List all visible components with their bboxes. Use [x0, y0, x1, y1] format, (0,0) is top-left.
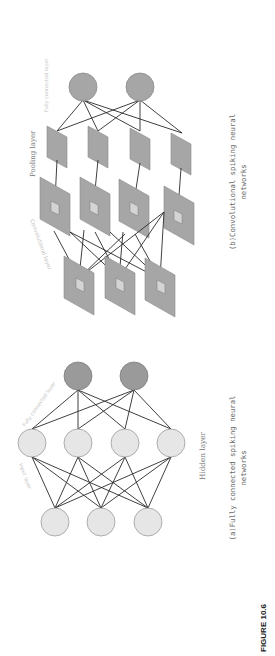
edges-hidden-to-input [32, 457, 171, 508]
fc-input-layer-label: Input layer [17, 462, 33, 491]
panel-b-caption-line2: networks [239, 164, 248, 199]
panel-a-fc: Fully connected layer Input layer Hidden… [17, 362, 248, 540]
panel-b-caption-line1: (b)Convolutional spiking neural [228, 114, 237, 250]
fc-output-node-2 [120, 362, 148, 390]
fc-output-node-1 [64, 362, 92, 390]
figure-label: FIGURE 10.6 [259, 603, 268, 652]
convolutional-layer-maps [40, 177, 194, 245]
panel-a-caption-line2: networks [239, 450, 248, 485]
edges-pooling-to-conv [55, 160, 181, 210]
pooling-layer-maps [47, 126, 191, 175]
panel-b-cnn: Fully connected layer Pooling layer Conv… [28, 58, 248, 317]
fc-hidden-node-1 [18, 429, 46, 457]
pooling-layer-label: Pooling layer [29, 130, 37, 177]
panel-a-caption-line1: (a)Fully connected spiking neural [228, 396, 237, 541]
fc-input-node-1 [41, 508, 69, 536]
fc-hidden-node-2 [64, 429, 92, 457]
input-layer-maps [64, 256, 175, 317]
fc-hidden-node-4 [157, 429, 185, 457]
edges-output-to-pooling [57, 100, 182, 133]
cnn-output-node-1 [69, 73, 97, 101]
hidden-layer-label: Hidden layer [198, 431, 207, 480]
figure-canvas: Fully connected layer Pooling layer Conv… [0, 0, 275, 656]
cnn-output-node-2 [126, 73, 154, 101]
edges-output-to-hidden [32, 390, 171, 429]
fc-input-node-2 [87, 508, 115, 536]
convolutional-layer-label: Convolutional layer [28, 218, 53, 271]
fc-hidden-node-3 [111, 429, 139, 457]
fc-input-node-3 [134, 508, 162, 536]
cnn-fully-connected-label: Fully connected layer [43, 58, 50, 112]
